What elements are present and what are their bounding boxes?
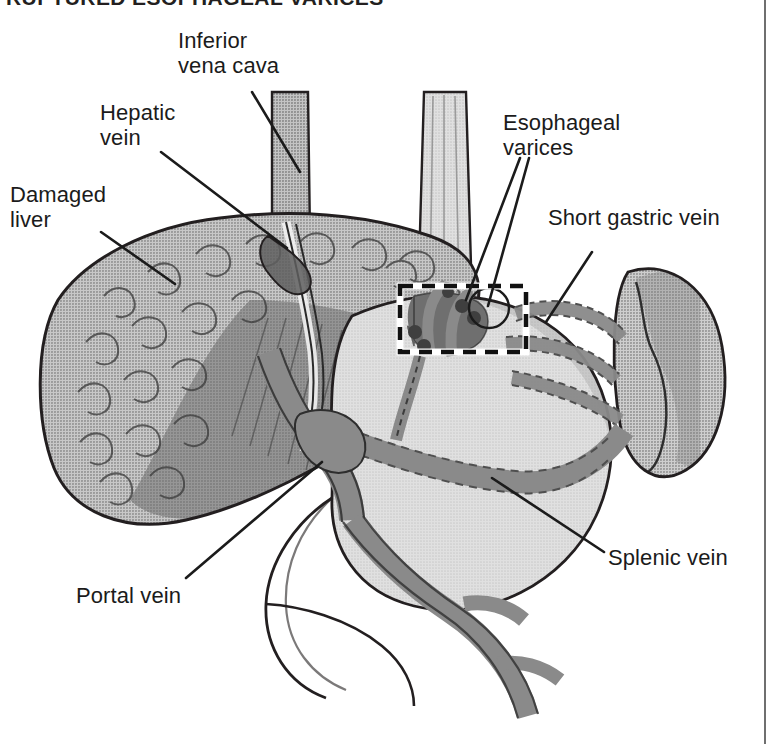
label-short-gastric-vein: Short gastric vein [548, 205, 720, 230]
label-splenic-vein: Splenic vein [608, 545, 728, 570]
label-esophageal-varices: Esophageal varices [503, 110, 620, 160]
label-damaged-liver: Damaged liver [10, 182, 106, 232]
leader-esophageal-varices-a [466, 158, 520, 300]
label-portal-vein: Portal vein [76, 583, 181, 608]
label-hepatic-vein: Hepatic vein [100, 100, 175, 150]
page-title: RUPTURED ESOPHAGEAL VARICES [6, 0, 384, 10]
spleen-structure [614, 260, 725, 477]
label-inferior-vena-cava: Inferior vena cava [178, 28, 279, 78]
